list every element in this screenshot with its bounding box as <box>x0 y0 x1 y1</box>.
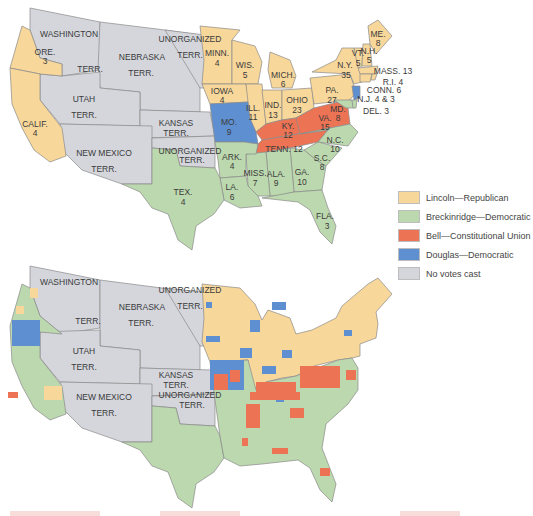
votes-va: 15 <box>320 122 330 132</box>
label-new-mexico-terr: TERR. <box>91 164 117 174</box>
label-unorganized-north-terr: TERR. <box>177 50 203 60</box>
label-utah-terr: TERR. <box>71 110 97 120</box>
label-minn: MINN. <box>205 48 229 58</box>
votes-iowa: 4 <box>220 95 225 105</box>
label-mass: MASS. 13 <box>374 66 413 76</box>
label-nj: N.J. 4 & 3 <box>357 94 395 104</box>
patch <box>320 468 330 476</box>
label-new-mexico: NEW MEXICO <box>76 148 132 158</box>
patch <box>206 336 220 342</box>
legend-label: Breckinridge—Democratic <box>426 212 531 222</box>
votes-ohio: 23 <box>292 105 302 115</box>
patch <box>12 320 40 346</box>
label-mo: MO. <box>221 117 237 127</box>
patch <box>206 302 212 308</box>
label-wis: WIS. <box>236 60 254 70</box>
patch <box>262 366 276 374</box>
swatch-lincoln <box>398 191 420 204</box>
label-unorganized-south: UNORGANIZED <box>159 390 222 400</box>
votes-la: 6 <box>230 192 235 202</box>
state-delaware <box>352 100 357 108</box>
label-washington-terr: TERR. <box>77 64 103 74</box>
legend-item-lincoln: Lincoln—Republican <box>398 188 533 207</box>
label-fla: FLA. <box>316 211 334 221</box>
votes-ga: 10 <box>297 177 307 187</box>
votes-sc: 8 <box>320 162 325 172</box>
label-utah: UTAH <box>73 94 96 104</box>
caption-fragment <box>10 511 100 516</box>
label-kansas-terr: TERR. <box>163 128 189 138</box>
label-ohio: OHIO <box>286 95 308 105</box>
legend-label: Lincoln—Republican <box>426 193 509 203</box>
votes-me: 8 <box>376 38 381 48</box>
cropped-caption <box>0 509 533 516</box>
votes-ark: 4 <box>230 161 235 171</box>
patch <box>290 408 304 418</box>
votes-vt: 5 <box>356 58 361 68</box>
caption-fragment <box>160 511 240 516</box>
legend-item-bell: Bell—Constitutional Union <box>398 226 533 245</box>
votes-ala: 9 <box>274 178 279 188</box>
label-kansas: KANSAS <box>159 370 194 380</box>
label-unorganized-north: UNORGANIZED <box>159 34 222 44</box>
votes-ore: 3 <box>43 56 48 66</box>
votes-tex: 4 <box>181 197 186 207</box>
votes-miss: 7 <box>253 178 258 188</box>
label-unorganized-north-terr: TERR. <box>177 301 203 311</box>
patch <box>300 366 340 388</box>
swatch-bell <box>398 229 420 242</box>
patch <box>346 370 356 380</box>
label-tex: TEX. <box>174 187 193 197</box>
label-la: LA. <box>226 182 239 192</box>
label-unorganized-south-terr: TERR. <box>179 400 205 410</box>
label-kansas-terr: TERR. <box>163 380 189 390</box>
legend-label: Bell—Constitutional Union <box>426 231 531 241</box>
votes-mo: 9 <box>227 127 232 137</box>
patch <box>250 320 260 332</box>
label-unorganized-north: UNORGANIZED <box>159 285 222 295</box>
votes-fla: 3 <box>325 221 330 231</box>
label-new-mexico: NEW MEXICO <box>76 392 132 402</box>
patch <box>250 392 300 400</box>
label-nebraska: NEBRASKA <box>119 52 166 62</box>
votes-ny: 35 <box>341 70 351 80</box>
label-ga: GA. <box>295 167 310 177</box>
patch <box>272 302 286 310</box>
patch <box>230 370 240 382</box>
votes-md: 8 <box>336 113 341 123</box>
caption-fragment <box>400 511 460 516</box>
label-nebraska: NEBRASKA <box>119 302 166 312</box>
label-utah-terr: TERR. <box>71 362 97 372</box>
label-washington-terr: TERR. <box>75 316 101 326</box>
state-connecticut <box>360 74 372 82</box>
votes-wis: 5 <box>243 70 248 80</box>
patch <box>30 288 38 298</box>
legend-item-breckinridge: Breckinridge—Democratic <box>398 207 533 226</box>
label-del: DEL. 3 <box>363 106 389 116</box>
patch <box>282 350 292 358</box>
swatch-breckinridge <box>398 210 420 223</box>
label-tenn: TENN. 12 <box>265 144 303 154</box>
votes-mich: 6 <box>281 79 286 89</box>
label-pa: PA. <box>325 85 338 95</box>
label-unorganized-south-terr: TERR. <box>179 155 205 165</box>
label-nebraska-terr: TERR. <box>128 318 154 328</box>
label-miss: MISS. <box>243 168 266 178</box>
label-washington: WASHINGTON <box>40 277 98 287</box>
patch <box>44 386 62 400</box>
label-nebraska-terr: TERR. <box>128 68 154 78</box>
label-new-mexico-terr: TERR. <box>91 408 117 418</box>
patch <box>240 348 252 358</box>
label-utah: UTAH <box>73 346 96 356</box>
label-ny: N.Y. <box>337 60 352 70</box>
patch <box>246 404 260 428</box>
votes-minn: 4 <box>215 58 220 68</box>
patch <box>214 374 228 390</box>
patch <box>242 438 248 446</box>
patch <box>344 330 352 336</box>
county-vote-map: WASHINGTON TERR. NEBRASKA TERR. UNORGANI… <box>0 258 533 510</box>
votes-ill: 11 <box>249 112 258 122</box>
label-ind: IND. <box>265 100 282 110</box>
votes-ind: 13 <box>268 110 278 120</box>
votes-ky: 12 <box>283 130 293 140</box>
